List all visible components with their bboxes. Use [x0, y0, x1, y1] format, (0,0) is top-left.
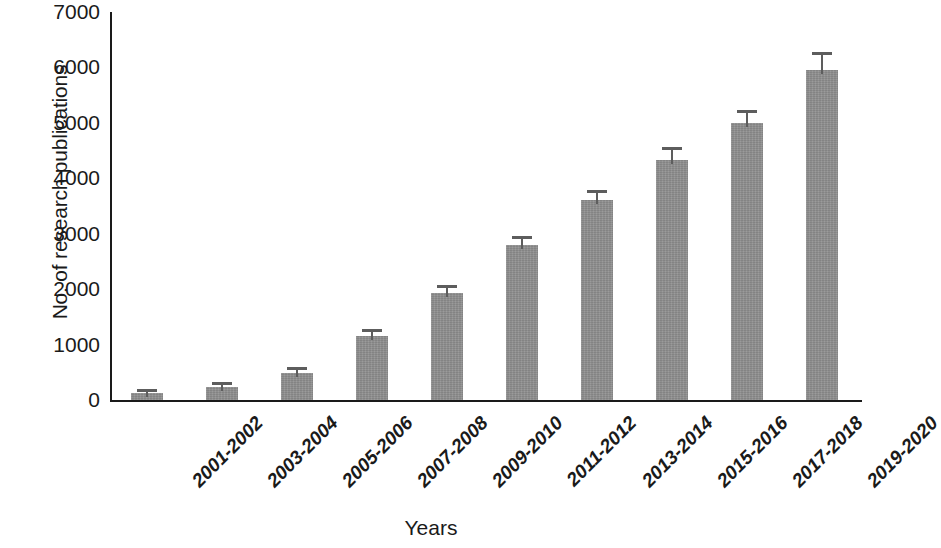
x-axis-tick-label: 2017-2018 — [788, 412, 868, 492]
x-axis-tick-label: 2007-2008 — [413, 412, 493, 492]
x-axis-tick-label: 2005-2006 — [338, 412, 418, 492]
x-axis-tick-label: 2019-2020 — [863, 412, 941, 492]
x-axis-title: Years — [0, 516, 862, 540]
x-axis-tick-label: 2015-2016 — [713, 412, 793, 492]
x-axis-tick-label: 2011-2012 — [562, 412, 641, 491]
x-axis-tick-label: 2003-2004 — [263, 412, 343, 492]
x-axis-tick-label: 2009-2010 — [488, 412, 568, 492]
x-axis-tick-label: 2013-2014 — [638, 412, 718, 492]
x-axis-tick-label: 2001-2002 — [188, 412, 268, 492]
